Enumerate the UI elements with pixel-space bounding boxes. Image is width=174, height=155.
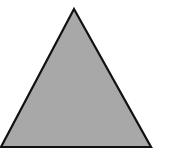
- gray-triangle: [1, 9, 151, 147]
- diagram-canvas: [0, 0, 174, 155]
